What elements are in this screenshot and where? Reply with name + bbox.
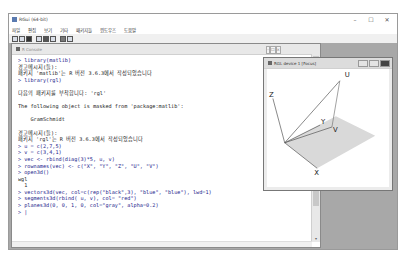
menu-bar: 파일 편집 보기 기타 패키지들 윈도우즈 도움말 [9, 25, 397, 34]
x-label: X [314, 169, 319, 177]
open-script-icon[interactable] [12, 36, 18, 42]
console-input-line: > | [18, 209, 310, 216]
copy-icon[interactable] [36, 36, 42, 42]
rgl-minimize-button[interactable] [358, 60, 368, 67]
menu-file[interactable]: 파일 [12, 27, 20, 33]
rgl-title: RGL device 1 [Focus] [274, 61, 316, 66]
load-workspace-icon[interactable] [19, 36, 25, 42]
z-label: Z [269, 91, 274, 99]
save-workspace-icon[interactable] [26, 36, 32, 42]
rgl-3d-canvas[interactable]: X Y Z U V [267, 69, 389, 187]
y-label: Y [320, 118, 326, 126]
menu-windows[interactable]: 윈도우즈 [100, 27, 116, 33]
rgl-close-button[interactable] [380, 60, 390, 67]
menu-help[interactable]: 도움말 [124, 27, 136, 33]
menu-misc[interactable]: 기타 [60, 27, 68, 33]
3d-vector-plot: X Y Z U V [267, 69, 389, 187]
print-icon[interactable] [67, 36, 73, 42]
menu-edit[interactable]: 편집 [28, 27, 36, 33]
menu-packages[interactable]: 패키지들 [76, 27, 92, 33]
close-button[interactable]: ✕ [379, 14, 395, 25]
console-title: R Console [22, 47, 42, 52]
rgl-window-icon [268, 61, 272, 65]
scroll-down-icon[interactable]: ▾ [312, 236, 320, 242]
maximize-button[interactable]: ☐ [363, 14, 379, 25]
xy-plane [285, 116, 376, 168]
console-horizontal-scrollbar[interactable] [12, 241, 312, 247]
console-input-line: > planes3d(0, 0, 1, 0, col="gray", alpha… [18, 202, 310, 209]
console-icon [16, 47, 20, 51]
rgl-maximize-button[interactable] [369, 60, 379, 67]
u-label: U [345, 71, 350, 79]
rgl-device-window: RGL device 1 [Focus] X Y [263, 57, 393, 191]
copy-paste-icon[interactable] [50, 36, 56, 42]
rgl-title-bar: RGL device 1 [Focus] [264, 58, 392, 69]
rgui-main-window: RGui (64-bit) – ☐ ✕ 파일 편집 보기 기타 패키지들 윈도우… [8, 13, 398, 250]
menu-view[interactable]: 보기 [44, 27, 52, 33]
toolbar [9, 34, 397, 43]
mdi-workspace: R Console – ☐ × > library(matlib)경고메시지(들… [9, 43, 397, 249]
minimize-button[interactable]: – [347, 14, 363, 25]
console-input-line: > segments3d(rbind( u, v), col= "red") [18, 195, 310, 202]
title-bar: RGui (64-bit) – ☐ ✕ [9, 14, 397, 25]
window-title: RGui (64-bit) [19, 17, 48, 22]
paste-icon[interactable] [43, 36, 49, 42]
stop-icon[interactable] [60, 36, 66, 42]
v-label: V [333, 126, 338, 134]
r-app-icon [12, 17, 17, 22]
console-close-button[interactable]: × [276, 46, 281, 54]
z-axis-vector [273, 99, 285, 143]
